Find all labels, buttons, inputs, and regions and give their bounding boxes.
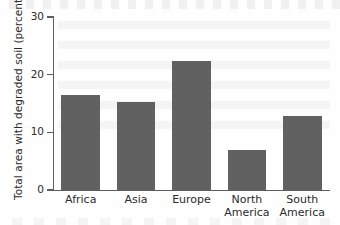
bar-asia — [117, 102, 156, 190]
scan-artifact-top — [0, 0, 340, 9]
y-tick-label: 0 — [4, 183, 44, 195]
bar-africa — [61, 95, 100, 190]
y-tick-label: 10 — [4, 125, 44, 137]
y-tick-label: 30 — [4, 10, 44, 22]
category-label-south-america: South America — [275, 194, 330, 219]
y-tick-label: 20 — [4, 68, 44, 80]
category-label-africa: Africa — [53, 194, 108, 207]
y-axis-title: Total area with degraded soil (percent) — [12, 20, 24, 200]
category-label-europe: Europe — [164, 194, 219, 207]
category-label-north-america: North America — [219, 194, 274, 219]
bar-south-america — [283, 116, 322, 190]
bar-north-america — [228, 150, 267, 190]
category-label-asia: Asia — [108, 194, 163, 207]
scan-artifact-bottom — [0, 218, 340, 225]
bar-chart: Total area with degraded soil (percent) … — [0, 0, 340, 225]
bar-series — [53, 17, 330, 190]
bar-europe — [172, 61, 211, 190]
